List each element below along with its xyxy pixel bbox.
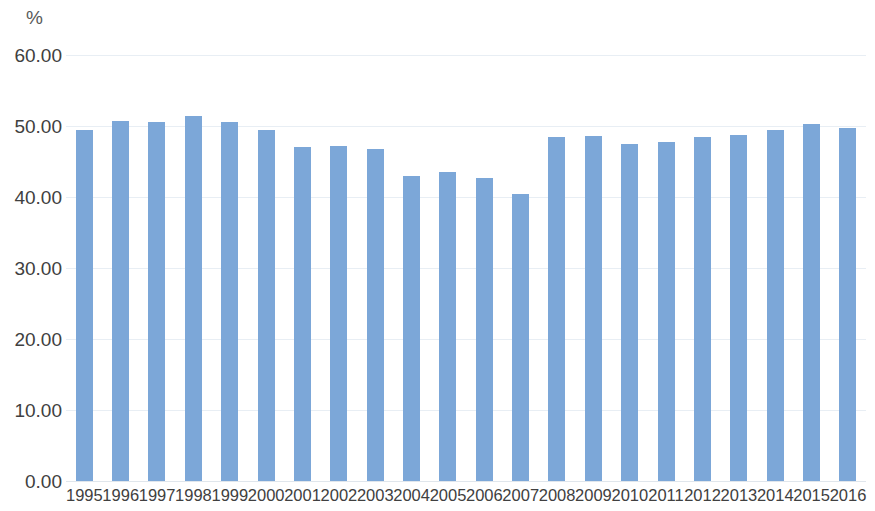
bar-slot — [548, 55, 565, 481]
y-axis-tick-labels: 60.0050.0040.0030.0020.0010.000.00 — [0, 55, 62, 481]
x-axis-tick-label: 2016 — [830, 485, 866, 506]
bar-slot — [658, 55, 675, 481]
bar-slot — [258, 55, 275, 481]
y-axis-tick-label: 40.00 — [0, 188, 62, 207]
x-axis-tick-label: 2006 — [466, 485, 502, 506]
bar — [803, 124, 820, 481]
x-axis-tick-label: 2012 — [684, 485, 720, 506]
x-axis-tick-label: 2005 — [430, 485, 466, 506]
x-axis-tick-label: 2004 — [393, 485, 429, 506]
x-axis-tick-label: 2010 — [611, 485, 647, 506]
x-axis-tick-label: 2015 — [793, 485, 829, 506]
bar — [330, 146, 347, 481]
bar — [767, 130, 784, 481]
y-axis-unit-label: % — [26, 8, 43, 27]
bar-slot — [621, 55, 638, 481]
x-axis-tick-label: 2007 — [502, 485, 538, 506]
y-axis-tick-label: 0.00 — [0, 472, 62, 491]
bar-slot — [185, 55, 202, 481]
x-axis-tick-label: 2002 — [321, 485, 357, 506]
bar-slot — [76, 55, 93, 481]
bar — [730, 135, 747, 481]
bar-slot — [112, 55, 129, 481]
bar — [512, 194, 529, 481]
bar — [76, 130, 93, 481]
x-axis-tick-label: 2009 — [575, 485, 611, 506]
bar-chart: % 60.0050.0040.0030.0020.0010.000.00 199… — [0, 0, 875, 511]
x-axis-tick-label: 1995 — [66, 485, 102, 506]
bar-slot — [803, 55, 820, 481]
bar — [476, 178, 493, 481]
x-axis-tick-label: 2000 — [248, 485, 284, 506]
x-axis-tick-label: 2003 — [357, 485, 393, 506]
y-axis-tick-label: 60.00 — [0, 46, 62, 65]
bar — [548, 137, 565, 481]
bar-slot — [730, 55, 747, 481]
bar — [221, 122, 238, 481]
bar — [185, 116, 202, 481]
bar-slot — [148, 55, 165, 481]
x-axis-tick-label: 2008 — [539, 485, 575, 506]
bar — [439, 172, 456, 481]
y-axis-tick-label: 20.00 — [0, 330, 62, 349]
bar — [367, 149, 384, 481]
bar-slot — [585, 55, 602, 481]
x-axis-tick-label: 2014 — [757, 485, 793, 506]
y-axis-tick-label: 50.00 — [0, 117, 62, 136]
bar-slot — [367, 55, 384, 481]
gridline — [66, 481, 866, 482]
bar-slot — [330, 55, 347, 481]
bar — [621, 144, 638, 481]
x-axis-tick-label: 1998 — [175, 485, 211, 506]
bar-slot — [403, 55, 420, 481]
x-axis-tick-label: 1999 — [211, 485, 247, 506]
x-axis-tick-labels: 1995199619971998199920002001200220032004… — [66, 485, 866, 511]
bar-slot — [476, 55, 493, 481]
bar-slot — [294, 55, 311, 481]
bar — [585, 136, 602, 481]
x-axis-tick-label: 1996 — [102, 485, 138, 506]
y-axis-tick-label: 30.00 — [0, 259, 62, 278]
bar-slot — [512, 55, 529, 481]
bar — [112, 121, 129, 481]
bar — [258, 130, 275, 481]
bar-slot — [439, 55, 456, 481]
bar-slot — [839, 55, 856, 481]
bar-slot — [767, 55, 784, 481]
x-axis-tick-label: 2011 — [648, 485, 684, 506]
x-axis-tick-label: 1997 — [139, 485, 175, 506]
bar — [658, 142, 675, 481]
bar — [839, 128, 856, 481]
x-axis-tick-label: 2001 — [284, 485, 320, 506]
x-axis-tick-label: 2013 — [721, 485, 757, 506]
bar — [694, 137, 711, 481]
bar — [403, 176, 420, 481]
y-axis-tick-label: 10.00 — [0, 401, 62, 420]
bar-slot — [694, 55, 711, 481]
bar — [294, 147, 311, 481]
bars-container — [66, 55, 866, 481]
bar — [148, 122, 165, 481]
bar-slot — [221, 55, 238, 481]
